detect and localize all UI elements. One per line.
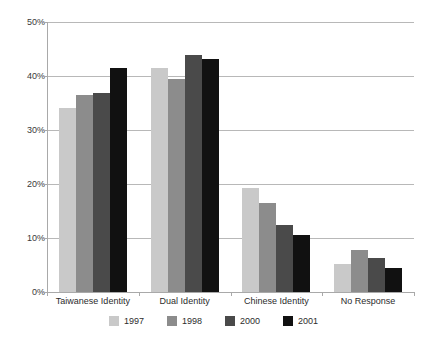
x-axis-tick-label: Chinese Identity [231, 296, 323, 306]
legend-item[interactable]: 1997 [109, 316, 144, 326]
y-axis-tick-label: 20% [3, 179, 45, 189]
bar [242, 188, 259, 292]
x-axis-tick-label: No Response [322, 296, 414, 306]
bar-group [139, 22, 231, 292]
legend-swatch [225, 316, 235, 326]
bar [276, 225, 293, 293]
legend-item[interactable]: 2001 [283, 316, 318, 326]
bar [334, 264, 351, 292]
bar [293, 235, 310, 292]
x-axis-tick-mark [139, 292, 140, 296]
y-axis-tick-label: 40% [3, 71, 45, 81]
x-axis-tick-label: Dual Identity [139, 296, 231, 306]
legend-label: 1997 [124, 316, 144, 326]
legend-item[interactable]: 1998 [167, 316, 202, 326]
legend-label: 2000 [240, 316, 260, 326]
x-axis-tick-mark [47, 292, 48, 296]
bar [185, 55, 202, 292]
legend: 1997199820002001 [0, 316, 427, 326]
y-axis: 50%40%30%20%10%0% [0, 0, 45, 349]
y-axis-tick-label: 10% [3, 233, 45, 243]
y-axis-tick-label: 0% [3, 287, 45, 297]
x-axis-tick-label: Taiwanese Identity [47, 296, 139, 306]
bar-chart: 50%40%30%20%10%0% Taiwanese IdentityDual… [0, 0, 427, 349]
bar [168, 79, 185, 292]
legend-label: 1998 [182, 316, 202, 326]
bar-groups [47, 22, 414, 292]
bar [93, 93, 110, 292]
bar [351, 250, 368, 292]
x-axis-tick-mark [322, 292, 323, 296]
y-axis-tick-label: 50% [3, 17, 45, 27]
bar-group [231, 22, 323, 292]
x-axis-labels: Taiwanese IdentityDual IdentityChinese I… [47, 296, 414, 306]
bar [110, 68, 127, 292]
x-axis-tick-mark [414, 292, 415, 296]
bar-group [322, 22, 414, 292]
legend-item[interactable]: 2000 [225, 316, 260, 326]
legend-swatch [109, 316, 119, 326]
bar [385, 268, 402, 292]
bar [259, 203, 276, 292]
x-axis-tick-mark [231, 292, 232, 296]
bar [202, 59, 219, 292]
bar [368, 258, 385, 292]
bar [151, 68, 168, 292]
bar [76, 95, 93, 292]
bar [59, 108, 76, 292]
legend-swatch [167, 316, 177, 326]
bar-group [47, 22, 139, 292]
y-axis-tick-label: 30% [3, 125, 45, 135]
legend-swatch [283, 316, 293, 326]
legend-label: 2001 [298, 316, 318, 326]
